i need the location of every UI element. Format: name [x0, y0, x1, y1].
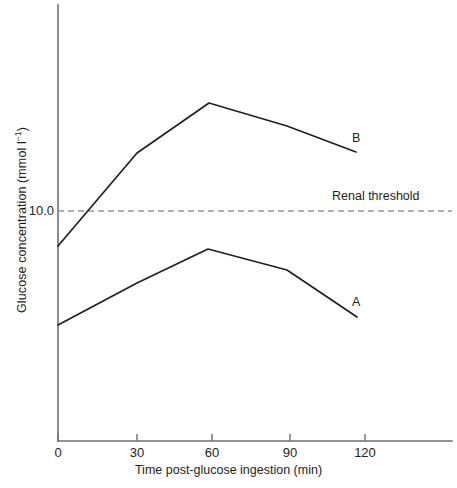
y-axis-label-tail: ) [15, 127, 29, 131]
x-axis-label: Time post-glucose ingestion (min) [0, 463, 457, 477]
series-line-a [58, 249, 357, 325]
chart-plot-area [0, 0, 457, 488]
renal-threshold-label: Renal threshold [332, 189, 420, 203]
x-tick-label-90: 90 [268, 445, 312, 460]
y-axis-label: Glucose concentration (mmol l−1) [15, 110, 29, 330]
series-line-b [58, 103, 356, 246]
series-label-b: B [352, 131, 360, 145]
series-label-a: A [352, 295, 360, 309]
y-axis-label-main: Glucose concentration (mmol l [15, 141, 29, 313]
glucose-tolerance-chart: Glucose concentration (mmol l−1) 10.0 0 … [0, 0, 457, 488]
x-tick-label-0: 0 [36, 445, 80, 460]
x-tick-label-60: 60 [190, 445, 234, 460]
y-tick-label-10: 10.0 [10, 203, 54, 218]
x-tick-label-120: 120 [343, 445, 387, 460]
x-tick-label-30: 30 [115, 445, 159, 460]
y-axis-label-superscript: −1 [13, 131, 23, 141]
